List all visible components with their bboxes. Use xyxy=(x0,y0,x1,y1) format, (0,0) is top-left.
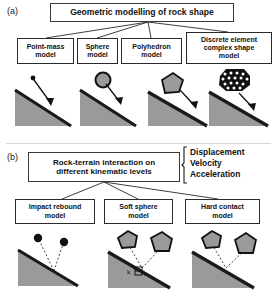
illustration-impact-rebound xyxy=(14,230,96,296)
incoming-rock-dot-icon xyxy=(34,234,42,242)
illustration-hard-contact xyxy=(188,228,274,298)
rebounding-polyhedron-icon xyxy=(151,232,172,251)
clump-body-icon xyxy=(219,69,250,91)
polyhedron-icon xyxy=(162,73,183,93)
box-b-1-line2: model xyxy=(45,212,66,219)
panel-label-b: (b) xyxy=(7,152,18,162)
box-a-1-line2: model xyxy=(35,51,56,58)
box-b-3-line2: model xyxy=(212,212,233,219)
box-a-3-line2: model xyxy=(141,51,162,58)
kinematic-level-velocity: Velocity xyxy=(190,158,244,169)
kinematic-levels-list: Displacement Velocity Acceleration xyxy=(190,147,244,181)
box-b-3-line1: Hard contact xyxy=(201,203,244,210)
box-b-2-line2: model xyxy=(128,212,149,219)
figure-root: (a) Geometric modelling of rock shape Po… xyxy=(0,0,277,301)
model-box-impact-rebound[interactable]: Impact rebound model xyxy=(15,199,95,224)
incoming-polyhedron-icon xyxy=(118,231,137,248)
box-a-3-line1: Polyhedron xyxy=(132,43,171,50)
box-b-1-line1: Impact rebound xyxy=(29,203,82,210)
illustration-soft-sphere: k c xyxy=(104,228,190,298)
sphere-icon xyxy=(96,73,111,88)
model-box-polyhedron[interactable]: Polyhedron model xyxy=(121,38,182,64)
rebounding-rock-dot-icon xyxy=(60,238,68,246)
box-a-4-line3: model xyxy=(219,52,240,59)
model-box-soft-sphere[interactable]: Soft sphere model xyxy=(104,199,173,224)
model-box-point-mass[interactable]: Point-mass model xyxy=(17,38,74,64)
spring-constant-label: k xyxy=(127,268,131,276)
model-box-discrete-element[interactable]: Discrete element complex shape model xyxy=(186,32,272,64)
box-a-4-line2: complex shape xyxy=(204,44,255,51)
kinematic-level-acceleration: Acceleration xyxy=(190,169,244,180)
panel-a-title-box: Geometric modelling of rock shape xyxy=(50,3,234,22)
box-a-2-line2: model xyxy=(87,51,108,58)
model-box-sphere[interactable]: Sphere model xyxy=(77,38,118,64)
panel-b-title-line2: different kinematic levels xyxy=(56,167,152,176)
model-box-hard-contact[interactable]: Hard contact model xyxy=(185,199,260,224)
box-a-2-line1: Sphere xyxy=(86,43,110,50)
box-a-1-line1: Point-mass xyxy=(27,43,65,50)
box-a-4-line1: Discrete element xyxy=(201,36,257,43)
panel-b-title-box: Rock-terrain interaction on different ki… xyxy=(28,152,180,182)
illustration-discrete-element-clump xyxy=(206,66,274,132)
panel-divider xyxy=(6,143,271,144)
illustration-point-mass xyxy=(12,70,76,132)
illustration-polyhedron xyxy=(145,68,213,132)
incoming-polyhedron-icon xyxy=(202,231,221,248)
rebounding-polyhedron-icon xyxy=(235,233,256,253)
box-b-2-line1: Soft sphere xyxy=(119,203,158,210)
damping-constant-label: c xyxy=(144,270,147,278)
rebound-path-icon xyxy=(54,244,63,271)
point-mass-dot-icon xyxy=(31,76,36,81)
panel-label-a: (a) xyxy=(7,6,18,16)
panel-b-title-line1: Rock-terrain interaction on xyxy=(53,158,155,167)
kinematic-level-displacement: Displacement xyxy=(190,147,244,158)
illustration-sphere xyxy=(77,70,141,132)
